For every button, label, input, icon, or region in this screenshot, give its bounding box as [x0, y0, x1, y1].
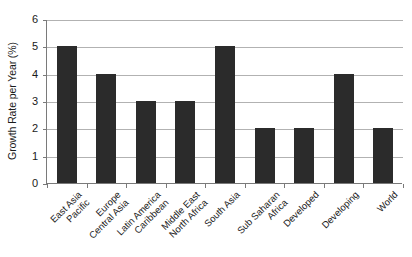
gridline — [47, 20, 403, 21]
bar — [255, 128, 275, 183]
bar — [96, 74, 116, 183]
x-axis-tick-mark — [205, 184, 206, 188]
x-axis-tick-mark — [87, 184, 88, 188]
y-axis-tick-label: 1 — [8, 151, 38, 162]
x-axis-tick-mark — [47, 184, 48, 188]
x-axis-tick-mark — [166, 184, 167, 188]
y-axis-tick-label: 4 — [8, 69, 38, 80]
y-axis-tick-label: 5 — [8, 41, 38, 52]
x-axis-tick-mark — [403, 184, 404, 188]
x-axis-tick-mark — [363, 184, 364, 188]
bar — [175, 101, 195, 183]
y-axis-tick-label: 2 — [8, 123, 38, 134]
y-axis-tick-mark — [43, 129, 47, 130]
y-axis-tick-mark — [43, 102, 47, 103]
bar — [215, 46, 235, 183]
y-axis-tick-mark — [43, 157, 47, 158]
bar — [136, 101, 156, 183]
bar — [334, 74, 354, 183]
plot-area — [46, 20, 402, 184]
y-axis-tick-mark — [43, 47, 47, 48]
x-axis-tick-mark — [245, 184, 246, 188]
y-axis-tick-label: 6 — [8, 14, 38, 25]
bar — [373, 128, 393, 183]
bar-chart: Growth Rate per Year (%) 0123456 East As… — [0, 0, 412, 257]
y-axis-tick-label: 3 — [8, 96, 38, 107]
y-axis-tick-label: 0 — [8, 178, 38, 189]
x-axis-tick-mark — [284, 184, 285, 188]
bar — [294, 128, 314, 183]
x-axis-tick-mark — [126, 184, 127, 188]
bar — [57, 46, 77, 183]
y-axis-tick-mark — [43, 20, 47, 21]
x-axis-tick-mark — [324, 184, 325, 188]
y-axis-tick-mark — [43, 75, 47, 76]
